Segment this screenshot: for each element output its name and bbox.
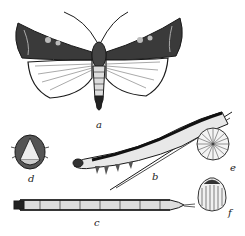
label-d: d	[28, 174, 34, 184]
label-a: a	[96, 120, 102, 130]
adult-moth	[16, 12, 183, 110]
label-f: f	[228, 208, 232, 218]
label-b: b	[152, 172, 158, 182]
egg-top	[197, 128, 229, 160]
illustration	[0, 0, 245, 236]
label-c: c	[94, 218, 100, 228]
larva-head	[11, 135, 49, 169]
label-e: e	[230, 163, 236, 173]
larva-dorsal	[14, 200, 195, 210]
egg-side	[198, 178, 226, 211]
